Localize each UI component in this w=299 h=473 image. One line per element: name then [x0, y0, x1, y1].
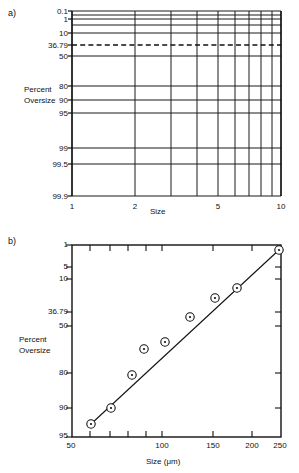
panel-b-right-ticks	[275, 267, 281, 408]
panel-b-xtick-1: 100	[155, 441, 168, 450]
data-point	[128, 371, 136, 379]
panel-b-ytick-1: 5	[20, 262, 68, 271]
data-point	[107, 404, 115, 412]
panel-b-bottom-ticks	[90, 431, 252, 437]
panel-b-data-points	[87, 246, 283, 428]
panel-a-xtick-2: 5	[216, 202, 220, 211]
panel-a-ytick-4: 50	[16, 52, 68, 61]
data-point	[186, 313, 194, 321]
panel-b-top-ticks	[90, 245, 252, 251]
panel-b-xtick-2: 150	[206, 441, 219, 450]
panel-a-ytick-3: 36.79	[16, 41, 68, 50]
figure-container: a) Percent Oversize 0.1 1 10 36.79 50 80…	[0, 0, 299, 473]
panel-a-ytick-9: 99.5	[16, 160, 68, 169]
panel-b-xtick-0: 50	[67, 441, 76, 450]
panel-a-label: a)	[8, 8, 16, 18]
panel-a-frame	[72, 11, 281, 196]
panel-a-ytick-8: 99	[16, 144, 68, 153]
panel-b-ytick-0: 1	[20, 240, 68, 249]
panel-a-ticks	[68, 11, 72, 196]
panel-a-ytick-7: 95	[16, 109, 68, 118]
panel-a-ytick-5: 80	[16, 82, 68, 91]
panel-b-ytick-4: 50	[20, 321, 68, 330]
data-point	[140, 345, 148, 353]
panel-b-xtick-4: 250	[273, 441, 286, 450]
panel-b-ytick-2: 10	[20, 274, 68, 283]
panel-a-xtick-0: 1	[70, 202, 74, 211]
data-point	[87, 420, 95, 428]
data-point	[275, 246, 283, 254]
panel-a-grid-horizontal	[72, 11, 281, 196]
data-point	[161, 338, 169, 346]
panel-b-ylabel-line2: Oversize	[19, 345, 51, 356]
panel-b-xtick-3: 200	[245, 441, 258, 450]
panel-a-ytick-1: 1	[16, 15, 68, 24]
panel-b-ylabel: Percent Oversize	[19, 334, 51, 356]
panel-b-xlabel: Size (μm)	[146, 457, 180, 466]
panel-b-ytick-5: 80	[20, 368, 68, 377]
panel-b-label: b)	[8, 236, 16, 246]
panel-b-fit-line	[91, 249, 280, 424]
panel-a-xlabel: Size	[150, 207, 166, 216]
data-point	[233, 284, 241, 292]
panel-b-ylabel-line1: Percent	[19, 334, 51, 345]
panel-b-ytick-3: 36.79	[20, 307, 68, 316]
panel-a-xtick-3: 10	[277, 202, 286, 211]
panel-b-ytick-7: 95	[20, 431, 68, 440]
panel-a-xtick-1: 2	[133, 202, 137, 211]
panel-b-frame	[72, 245, 281, 437]
panel-a-ytick-6: 90	[16, 96, 68, 105]
data-point	[211, 294, 219, 302]
panel-b-ytick-6: 90	[20, 403, 68, 412]
panel-a-ytick-10: 99.9	[16, 192, 68, 201]
panel-a-grid-vertical	[72, 11, 281, 196]
panel-a-ytick-2: 10	[16, 29, 68, 38]
